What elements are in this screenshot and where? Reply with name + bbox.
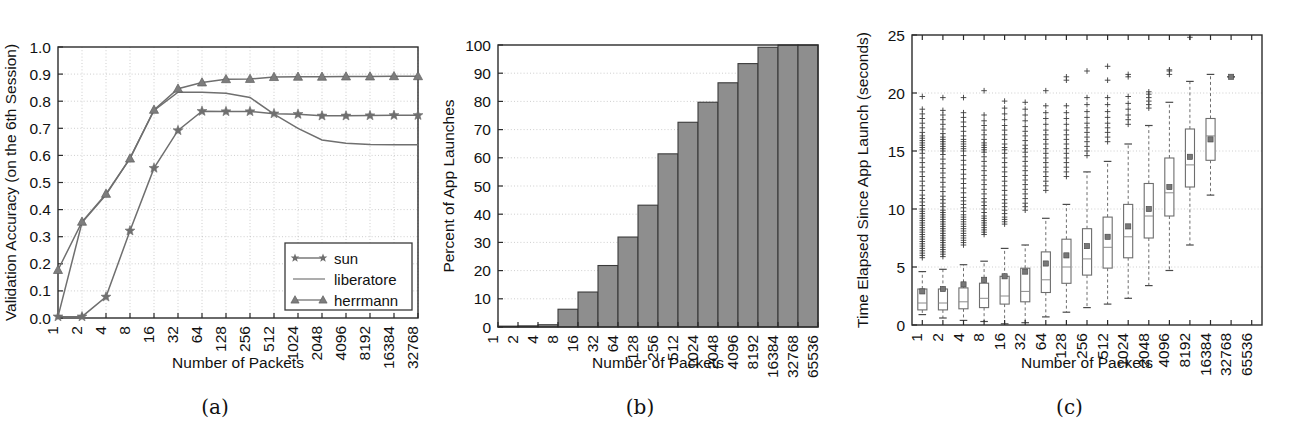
chart-a-svg: 0.00.10.20.30.40.50.60.70.80.91.01248163… <box>0 0 430 380</box>
bar <box>798 45 818 327</box>
chart-c-svg: 0510152025124816326412825651210242048409… <box>850 0 1289 380</box>
mean-marker <box>1187 154 1192 159</box>
x-tick-label: 16 <box>991 333 1008 350</box>
x-tick-label: 8192 <box>1176 333 1193 367</box>
y-tick-label: 30 <box>474 234 492 251</box>
x-tick-label: 1 <box>44 326 61 335</box>
chart-b-svg: 0102030405060708090100124816326412825651… <box>430 0 850 380</box>
y-tick-label: 60 <box>474 149 492 166</box>
panel-a-caption: (a) <box>0 395 430 419</box>
chart-c-xlabel: Number of Packets <box>1021 354 1153 371</box>
bar <box>558 309 578 327</box>
mean-marker <box>1167 184 1172 189</box>
y-tick-label: 5 <box>896 259 905 276</box>
bar <box>598 266 618 327</box>
box-iqr <box>980 283 989 307</box>
x-tick-label: 8192 <box>356 326 373 360</box>
x-tick-label: 4096 <box>1155 333 1172 367</box>
x-tick-label: 512 <box>260 326 277 352</box>
mean-marker <box>1146 206 1151 211</box>
y-tick-label: 0.8 <box>29 93 51 110</box>
marker-star <box>293 109 303 118</box>
box-iqr <box>959 288 968 309</box>
x-tick-label: 64 <box>604 335 621 353</box>
chart-c-ylabel: Time Elapsed Since App Launch (seconds) <box>854 32 871 328</box>
x-tick-label: 8192 <box>744 335 761 369</box>
boxplot-32768 <box>1227 74 1235 79</box>
boxplot-2048 <box>1144 89 1153 286</box>
x-tick-label: 128 <box>212 326 229 352</box>
boxplot-8192 <box>1185 35 1194 246</box>
box-iqr <box>1041 252 1050 293</box>
x-tick-label: 64 <box>1032 333 1049 351</box>
bar <box>678 122 698 327</box>
y-tick-label: 40 <box>474 206 492 223</box>
bar <box>618 237 638 327</box>
y-tick-label: 100 <box>465 37 491 54</box>
y-tick-label: 0.1 <box>29 282 51 299</box>
x-tick-label: 32768 <box>404 326 421 369</box>
chart-a-xlabel: Number of Packets <box>172 354 304 371</box>
x-tick-label: 2 <box>504 335 521 344</box>
x-tick-label: 8 <box>116 326 133 335</box>
panel-c-boxplot-chart: 0510152025124816326412825651210242048409… <box>850 0 1289 423</box>
mean-marker <box>920 289 925 294</box>
x-tick-label: 256 <box>236 326 253 352</box>
boxplot-4 <box>959 95 968 321</box>
series-line-herrmann <box>58 76 418 270</box>
chart-b-xlabel: Number of Packets <box>592 354 724 371</box>
mean-marker <box>1023 269 1028 274</box>
bar <box>778 45 798 327</box>
marker-star <box>341 111 351 120</box>
bar <box>658 154 678 327</box>
y-tick-label: 15 <box>888 143 905 160</box>
panel-c-caption: (c) <box>850 395 1289 419</box>
boxplot-2 <box>938 95 947 318</box>
y-tick-label: 0.7 <box>29 120 51 137</box>
y-tick-label: 0.2 <box>29 255 51 272</box>
x-tick-label: 65536 <box>804 335 821 378</box>
chart-c-boxes <box>918 35 1235 324</box>
bar <box>578 292 598 327</box>
boxplot-1024 <box>1124 72 1133 299</box>
box-iqr <box>938 289 947 310</box>
x-tick-label: 32 <box>164 326 181 343</box>
boxplot-4096 <box>1165 67 1174 271</box>
mean-marker <box>1126 224 1131 229</box>
x-tick-label: 8 <box>544 335 561 344</box>
box-iqr <box>1062 239 1071 283</box>
marker-star <box>149 163 159 172</box>
x-tick-label: 4 <box>950 333 967 342</box>
x-tick-label: 32 <box>1011 333 1028 350</box>
y-tick-label: 50 <box>474 178 492 195</box>
boxplot-16384 <box>1206 74 1215 195</box>
box-iqr <box>1000 276 1009 304</box>
mean-marker <box>961 282 966 287</box>
y-tick-label: 20 <box>888 85 906 102</box>
x-tick-label: 32768 <box>784 335 801 378</box>
bar <box>738 64 758 327</box>
marker-triangle <box>125 154 134 162</box>
box-iqr <box>1083 229 1092 275</box>
legend-label-herrmann: herrmann <box>334 292 398 309</box>
y-tick-label: 10 <box>474 290 492 307</box>
x-tick-label: 16 <box>140 326 157 343</box>
mean-marker <box>1229 74 1234 79</box>
box-iqr <box>1103 217 1112 268</box>
x-tick-label: 1 <box>908 333 925 342</box>
y-tick-label: 0.4 <box>29 201 51 218</box>
mean-marker <box>1208 137 1213 142</box>
y-tick-label: 0.6 <box>29 147 51 164</box>
x-tick-label: 65536 <box>1238 333 1255 376</box>
x-tick-label: 32 <box>584 335 601 352</box>
x-tick-label: 16384 <box>380 326 397 369</box>
y-tick-label: 0.5 <box>29 174 51 191</box>
panel-a-line-chart: 0.00.10.20.30.40.50.60.70.80.91.01248163… <box>0 0 430 423</box>
x-tick-label: 2 <box>68 326 85 335</box>
bar <box>638 205 658 327</box>
figure-row: 0.00.10.20.30.40.50.60.70.80.91.01248163… <box>0 0 1289 423</box>
boxplot-32 <box>1021 100 1030 323</box>
x-tick-label: 16 <box>564 335 581 352</box>
mean-marker <box>1105 234 1110 239</box>
box-iqr <box>1124 204 1133 257</box>
